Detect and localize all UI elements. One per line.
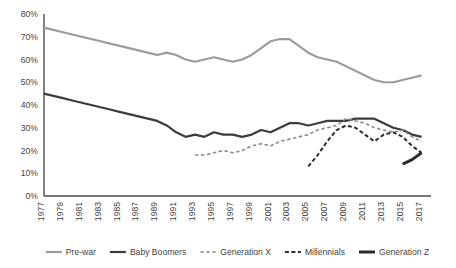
x-axis-tick-label: 2011: [357, 202, 367, 221]
x-axis-tick-label: 2005: [300, 202, 310, 221]
x-axis-tick-label: 2013: [376, 202, 386, 221]
y-axis-tick-label: 50%: [21, 77, 39, 87]
series-line-baby-boomers: [44, 94, 422, 137]
y-axis-tick-label: 10%: [21, 168, 39, 178]
x-axis-tick-label: 1999: [244, 202, 254, 221]
chart-legend: Pre-warBaby BoomersGeneration XMillennia…: [46, 247, 429, 257]
x-axis-tick-label: 1993: [187, 202, 197, 221]
legend-label-generation-x: Generation X: [220, 247, 271, 257]
y-axis-tick-labels: 80%70%60%50%40%30%20%10%0%: [21, 9, 39, 201]
y-axis-tick-label: 70%: [21, 32, 39, 42]
legend-label-millennials: Millennials: [305, 247, 345, 257]
x-axis-tick-label: 1979: [55, 202, 65, 221]
x-axis-tick-label: 1997: [225, 202, 235, 221]
data-series-group: [44, 28, 422, 167]
series-line-generation-z: [403, 153, 422, 164]
y-axis-tick-label: 80%: [21, 9, 39, 19]
x-axis-tick-label: 1983: [93, 202, 103, 221]
x-axis-tick-label: 1995: [206, 202, 216, 221]
x-axis-tick-label: 1981: [74, 202, 84, 221]
x-axis-tick-label: 1977: [36, 202, 46, 221]
x-axis-tick-label: 1989: [149, 202, 159, 221]
x-axis-tick-label: 2007: [319, 202, 329, 221]
legend-label-pre-war: Pre-war: [66, 247, 96, 257]
y-axis-tick-label: 40%: [21, 100, 39, 110]
x-axis-tick-label: 2003: [281, 202, 291, 221]
x-axis-tick-labels: 1977197919811983198519871989199119931995…: [36, 202, 424, 221]
chart-container: 80%70%60%50%40%30%20%10%0% 1977197919811…: [0, 0, 456, 268]
legend-label-generation-z: Generation Z: [379, 247, 429, 257]
x-axis-tick-label: 2017: [414, 202, 424, 221]
x-axis-tick-label: 2009: [338, 202, 348, 221]
x-axis-tick-label: 1991: [168, 202, 178, 221]
y-axis-tick-label: 30%: [21, 123, 39, 133]
y-axis-tick-label: 60%: [21, 55, 39, 65]
x-axis-tick-label: 2001: [263, 202, 273, 221]
x-axis-tick-label: 1987: [130, 202, 140, 221]
y-axis-tick-label: 0%: [26, 191, 39, 201]
x-axis-tick-label: 2015: [395, 202, 405, 221]
y-axis-tick-label: 20%: [21, 146, 39, 156]
x-axis-tick-label: 1985: [112, 202, 122, 221]
series-line-pre-war: [44, 28, 422, 83]
legend-label-baby-boomers: Baby Boomers: [130, 247, 186, 257]
line-chart: 80%70%60%50%40%30%20%10%0% 1977197919811…: [0, 0, 456, 268]
